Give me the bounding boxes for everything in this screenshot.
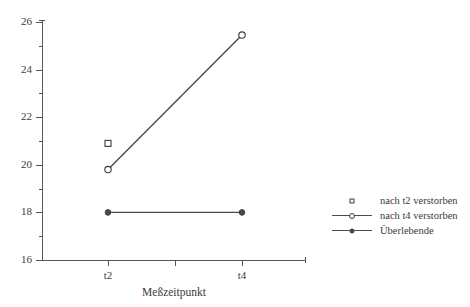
series-nach-t2-verstorben [105,140,111,146]
x-tick-label: t4 [222,270,262,281]
y-tick-major [36,70,43,71]
x-axis-title: Meßzeitpunkt [42,286,306,298]
y-tick-minor [39,189,43,190]
y-tick-minor [39,141,43,142]
y-tick-major [36,212,43,213]
chart-figure: 262422201816 t2t4 Meßzeitpunkt nach t2 v… [0,0,470,307]
x-tick-label: t2 [88,270,128,281]
legend-item-nach-t4-verstorben: nach t4 verstorben [330,209,470,222]
x-axis-line [42,260,306,261]
series-nach-t4-verstorben [105,32,245,173]
data-point-open-square [105,140,111,146]
data-point-open-circle [239,32,245,38]
y-tick-label: 26 [21,16,32,27]
y-tick-minor [39,236,43,237]
x-axis-right-cap [305,257,306,263]
legend-key-open-circle-line [330,209,374,222]
y-tick-major [36,117,43,118]
y-tick-label: 18 [21,206,32,217]
x-tick [242,260,243,266]
legend-label: nach t2 verstorben [374,195,458,207]
series-line [108,35,242,169]
data-point-filled-circle [239,210,245,216]
chart-legend: nach t2 verstorben nach t4 verstorben Üb… [330,194,470,239]
open-square-marker-icon [350,198,355,203]
x-tick [175,260,176,266]
legend-key-open-square [330,194,374,207]
open-circle-marker-icon [349,213,355,219]
data-point-filled-circle [105,210,111,216]
series-ueberlebende [105,210,245,216]
y-tick-major [36,260,43,261]
y-tick-label: 16 [21,254,32,265]
legend-item-ueberlebende: Überlebende [330,224,470,237]
y-tick-major [36,22,43,23]
y-tick-label: 22 [21,111,32,122]
y-tick-minor [39,93,43,94]
filled-circle-marker-icon [350,228,355,233]
y-tick-minor [39,46,43,47]
legend-item-nach-t2-verstorben: nach t2 verstorben [330,194,470,207]
x-tick [108,260,109,266]
legend-label: Überlebende [374,225,434,237]
legend-key-filled-circle-line [330,224,374,237]
y-tick-label: 20 [21,159,32,170]
y-tick-label: 24 [21,64,32,75]
legend-label: nach t4 verstorben [374,210,458,222]
y-axis-top-cap [39,20,45,21]
y-tick-major [36,165,43,166]
data-point-open-circle [105,166,111,172]
